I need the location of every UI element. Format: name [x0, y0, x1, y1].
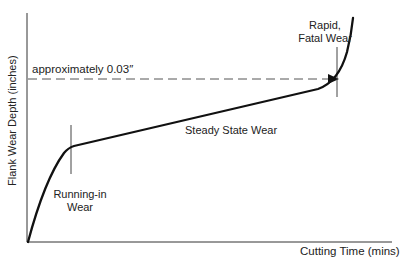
wear-curve-diagram: Flank Wear Depth (inches) Cutting Time (…	[0, 0, 402, 262]
y-axis-label: Flank Wear Depth (inches)	[6, 55, 18, 186]
rapid-wear-label-line1: Rapid,	[290, 19, 360, 32]
x-axis-label: Cutting Time (mins)	[300, 245, 400, 258]
threshold-label: approximately 0.03″	[32, 63, 133, 76]
running-in-label-line2: Wear	[50, 201, 110, 214]
running-in-label-line1: Running-in	[50, 188, 110, 201]
rapid-wear-label-line2: Fatal Wear	[290, 32, 360, 45]
rapid-wear-label: Rapid, Fatal Wear	[290, 19, 360, 45]
running-in-label: Running-in Wear	[50, 188, 110, 214]
steady-state-label: Steady State Wear	[185, 124, 277, 137]
